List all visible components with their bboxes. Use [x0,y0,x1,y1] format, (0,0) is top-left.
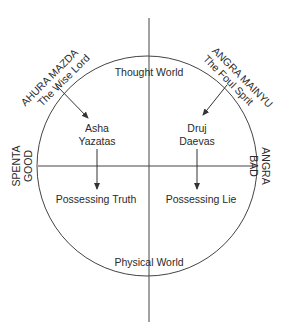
svg-text:BAD: BAD [248,155,260,177]
asha-label: Asha [85,122,109,134]
svg-text:SPENTA: SPENTA [10,145,22,186]
physical-world-label: Physical World [114,256,183,268]
druj-label: Druj [187,122,206,134]
svg-text:ANGRA: ANGRA [260,147,272,184]
angra-bad-label: ANGRA BAD [248,147,272,184]
daevas-label: Daevas [179,135,215,147]
ahura-to-asha-arrow [56,85,88,118]
possessing-lie-label: Possessing Lie [166,193,237,205]
angra-to-druj-arrow [203,85,227,115]
spenta-good-label: SPENTA GOOD [10,145,34,186]
yazatas-label: Yazatas [78,135,115,147]
thought-world-label: Thought World [115,66,184,78]
angra-mainyu-label: ANGRA MAINYU The Foul Sprit [201,44,275,118]
zoroastrian-dualism-diagram: Thought World Physical World SPENTA GOOD… [0,0,292,335]
svg-text:GOOD: GOOD [22,150,34,183]
possessing-truth-label: Possessing Truth [56,193,137,205]
